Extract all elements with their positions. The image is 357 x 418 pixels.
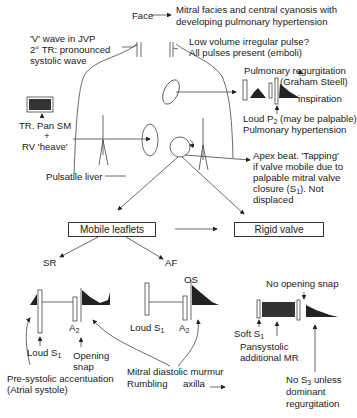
label-a2-mid: A2 xyxy=(179,322,189,333)
label-face-desc-1: Mitral facies and central cyanosis with xyxy=(176,4,337,15)
torso-outline-right xyxy=(176,44,233,158)
label-inspiration: inspiration xyxy=(298,93,342,104)
label-loud-p2: Loud P2 (may be palpable) xyxy=(243,113,357,124)
label-sr: SR xyxy=(43,257,56,268)
box-rigid-valve: Rigid valve xyxy=(234,222,324,237)
label-loud-s1-mid: Loud S1 xyxy=(130,322,164,333)
label-pulm-htn: Pulmonary hypertension xyxy=(243,124,346,135)
label-jvp-1: 'V' wave in JVP xyxy=(30,33,96,44)
label-apex-4: closure (S1). Not xyxy=(253,183,324,194)
pansystolic-murmur xyxy=(262,302,295,317)
tr-murmur-waveform xyxy=(29,99,51,110)
label-mdm-2b: axilla xyxy=(183,378,205,389)
label-pansys-2: additional MR xyxy=(240,352,299,363)
label-nos3-2: dominant xyxy=(286,386,325,397)
label-apex-2: if valve mobile due to xyxy=(253,161,343,172)
pulmonary-systolic-murmur xyxy=(250,88,266,98)
diastolic-right xyxy=(306,305,338,317)
label-jvp-3: systolic wave xyxy=(30,55,87,66)
label-soft-s1: Soft S1 xyxy=(234,328,264,339)
label-presystolic-2: (Atrial systole) xyxy=(7,384,68,395)
label-face-desc-2: developing pulmonary hypertension xyxy=(176,16,327,27)
label-mdm-2a: Rumbling xyxy=(127,378,168,389)
label-pulse-1: Low volume irregular pulse? xyxy=(189,36,309,47)
box-mobile-leaflets: Mobile leaflets xyxy=(68,222,156,237)
label-apex-5: displaced xyxy=(253,194,294,205)
label-pulse-2: All pulses present (emboli) xyxy=(189,47,302,58)
label-rv-heave: RV 'heave' xyxy=(22,141,68,152)
label-nos3-1: No S3 unless xyxy=(286,374,342,385)
label-a2-left: A2 xyxy=(69,322,79,333)
label-liver: Pulsatile liver xyxy=(46,171,103,182)
label-pansys-1: Pansystolic xyxy=(240,341,289,352)
label-opening-snap-1: Opening xyxy=(73,350,109,361)
label-apex-3: palpable mitral valve xyxy=(253,172,340,183)
mdm-mid xyxy=(192,285,219,305)
label-jvp-2: 2° TR: pronounced xyxy=(30,44,110,55)
label-pr-2: (Graham Steell) xyxy=(280,76,348,87)
mdm-left xyxy=(82,290,110,305)
label-tr-plus: + xyxy=(44,130,50,141)
label-no-os: No opening snap xyxy=(266,278,339,289)
label-presystolic-1: Pre-systolic accentuation xyxy=(7,373,114,384)
label-os: OS xyxy=(184,274,198,285)
label-apex-1: Apex beat. 'Tapping' xyxy=(253,150,339,161)
label-face: Face xyxy=(132,10,153,21)
label-mdm-1: Mitral diastolic murmur xyxy=(127,366,224,377)
label-opening-snap-2: snap xyxy=(73,361,94,372)
label-af: AF xyxy=(165,257,177,268)
presystolic-murmur xyxy=(30,294,37,305)
label-nos3-3: regurgitation xyxy=(286,398,339,409)
label-loud-s1-left: Loud S1 xyxy=(27,347,61,358)
label-pr-1: Pulmonary regurgitation xyxy=(244,65,346,76)
